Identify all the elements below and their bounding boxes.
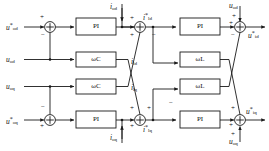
- signal-label-iod: iod: [110, 3, 117, 11]
- sign-sum2-plus-left: +: [130, 15, 134, 22]
- block-label-omega-c-d: ωC: [76, 56, 116, 63]
- sign-sum4-plus-top: +: [130, 105, 134, 112]
- signal-label-ioq: ioq: [110, 134, 117, 142]
- sign-sum4-plus-left: +: [130, 123, 134, 130]
- signal-label-uid-ref: u*id: [248, 30, 259, 39]
- sign-sum3-plus: +: [40, 123, 44, 130]
- sign-sum3-minus: −: [41, 104, 45, 111]
- block-label-omega-l-q: ωL: [180, 83, 220, 90]
- sign-sum5-plus-left: +: [229, 20, 233, 27]
- sign-sum4-plus-up: +: [147, 105, 151, 112]
- signal-label-uoq: uoq: [6, 83, 15, 91]
- block-label-omega-l-d: ωL: [180, 56, 220, 63]
- signal-label-uoq-bot: uoq: [229, 138, 238, 146]
- block-label-pi-d-outer: PI: [76, 23, 116, 30]
- block-label-pi-d-inner: PI: [180, 23, 220, 30]
- signal-label-uod-ref: u*od: [6, 22, 18, 31]
- signal-label-ilq-ref: i*lq: [143, 124, 152, 133]
- signal-label-uod: uod: [6, 56, 15, 64]
- sign-sum6-plus-left: +: [229, 122, 233, 129]
- sign-sum4-minus-right: −: [169, 100, 173, 107]
- sign-sum6-plus-bot: +: [231, 131, 235, 138]
- signal-label-uoq-ref: u*oq: [6, 116, 18, 125]
- sign-sum1-plus: +: [40, 14, 44, 21]
- signal-label-ild: ild: [131, 58, 137, 66]
- signal-label-ilq: ilq: [131, 84, 137, 92]
- block-label-pi-q-outer: PI: [76, 116, 116, 123]
- control-block-diagram: PI ωC ωC PI PI ωL ωL PI u*od uod uoq u*o…: [0, 0, 269, 151]
- sign-sum1-minus: −: [41, 32, 45, 39]
- signal-label-uiq-ref: u*iq: [246, 106, 257, 115]
- sign-sum6-plus-top: +: [231, 105, 235, 112]
- signal-label-uod-top: uod: [229, 2, 238, 10]
- sign-sum2-plus-low: +: [130, 32, 134, 39]
- signal-label-ild-ref: i*ld: [143, 12, 152, 21]
- sign-sum2-minus-right: −: [152, 32, 156, 39]
- block-label-pi-q-inner: PI: [180, 116, 220, 123]
- block-label-omega-c-q: ωC: [76, 83, 116, 90]
- sign-sum5-minus: −: [231, 32, 235, 39]
